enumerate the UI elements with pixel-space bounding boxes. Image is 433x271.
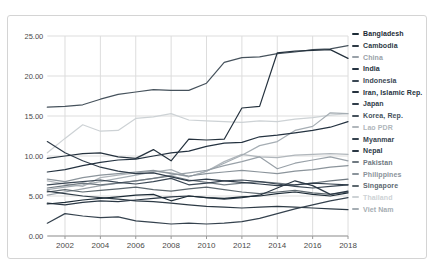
legend-item: Japan	[352, 98, 430, 110]
legend-item: Singapore	[352, 180, 430, 192]
legend-label: Japan	[363, 100, 384, 107]
legend-label: Singapore	[363, 182, 398, 189]
legend-label: Indonesia	[363, 77, 397, 84]
legend-swatch-dash-icon	[352, 56, 359, 58]
legend-item: China	[352, 51, 430, 63]
x-axis-tick-label: 2016	[304, 241, 322, 250]
legend-item: Indonesia	[352, 75, 430, 87]
legend-label: Lao PDR	[363, 124, 393, 131]
legend-label: Pakistan	[363, 159, 393, 166]
chart-legend: BangladeshCambodiaChinaIndiaIndonesiaIra…	[352, 28, 430, 215]
x-axis-tick-label: 2014	[268, 241, 286, 250]
series-line-iran-islamic-rep	[47, 50, 348, 161]
legend-label: Cambodia	[363, 42, 398, 49]
y-axis-tick-label: 5.00	[29, 192, 44, 201]
legend-item: Korea, Rep.	[352, 110, 430, 122]
legend-swatch-dash-icon	[352, 138, 359, 140]
x-axis-tick-label: 2018	[339, 241, 357, 250]
legend-item: Philippines	[352, 168, 430, 180]
legend-item: Nepal	[352, 145, 430, 157]
legend-item: Thailand	[352, 192, 430, 204]
legend-swatch-dash-icon	[352, 68, 359, 70]
y-axis-tick-label: 15.00	[25, 112, 44, 121]
legend-swatch-dash-icon	[352, 103, 359, 105]
legend-label: China	[363, 54, 383, 61]
legend-swatch-dash-icon	[352, 91, 359, 93]
legend-swatch-dash-icon	[352, 33, 359, 35]
x-axis-tick-label: 2010	[198, 241, 216, 250]
legend-swatch-dash-icon	[352, 185, 359, 187]
legend-label: Korea, Rep.	[363, 112, 403, 119]
legend-item: Lao PDR	[352, 122, 430, 134]
y-axis-tick-label: 10.00	[25, 152, 44, 161]
legend-item: Viet Nam	[352, 203, 430, 215]
series-line-thailand	[47, 114, 348, 153]
x-axis-tick-label: 2008	[162, 241, 180, 250]
legend-label: Thailand	[363, 194, 393, 201]
legend-label: Viet Nam	[363, 206, 394, 213]
legend-swatch-dash-icon	[352, 173, 359, 175]
legend-swatch-dash-icon	[352, 150, 359, 152]
legend-swatch-dash-icon	[352, 196, 359, 198]
x-axis-tick-label: 2002	[56, 241, 74, 250]
legend-item: Cambodia	[352, 40, 430, 52]
legend-swatch-dash-icon	[352, 45, 359, 47]
legend-swatch-dash-icon	[352, 208, 359, 210]
x-axis-tick-label: 2006	[127, 241, 145, 250]
legend-swatch-dash-icon	[352, 115, 359, 117]
legend-label: Iran, Islamic Rep.	[363, 89, 422, 96]
legend-label: Philippines	[363, 171, 401, 178]
legend-item: Pakistan	[352, 157, 430, 169]
legend-label: Myanmar	[363, 136, 394, 143]
x-axis-tick-label: 2012	[233, 241, 251, 250]
legend-item: India	[352, 63, 430, 75]
series-line-viet-nam	[47, 113, 348, 190]
legend-label: Bangladesh	[363, 30, 404, 37]
legend-item: Myanmar	[352, 133, 430, 145]
y-axis-tick-label: 25.00	[25, 32, 44, 41]
line-chart: 0.005.0010.0015.0020.0025.00200220042006…	[0, 0, 433, 271]
y-axis-tick-label: 0.00	[29, 232, 44, 241]
series-line-bangladesh	[47, 192, 348, 204]
x-axis-tick-label: 2004	[91, 241, 109, 250]
y-axis-tick-label: 20.00	[25, 72, 44, 81]
legend-item: Bangladesh	[352, 28, 430, 40]
legend-label: India	[363, 65, 380, 72]
legend-swatch-dash-icon	[352, 80, 359, 82]
legend-label: Nepal	[363, 147, 383, 154]
legend-swatch-dash-icon	[352, 126, 359, 128]
legend-swatch-dash-icon	[352, 161, 359, 163]
legend-item: Iran, Islamic Rep.	[352, 86, 430, 98]
